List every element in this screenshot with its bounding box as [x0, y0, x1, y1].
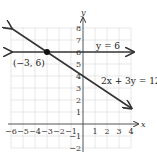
svg-text:−5: −5	[17, 127, 29, 136]
svg-text:−1: −1	[69, 132, 81, 141]
svg-text:4: 4	[128, 127, 133, 136]
graph: x y −6−5−4 −3−2−1 123 4 876 543 21 −1−2 …	[0, 0, 157, 155]
svg-text:−4: −4	[29, 127, 41, 136]
svg-text:−2: −2	[53, 127, 65, 136]
svg-text:2: 2	[104, 127, 109, 136]
label-y-6: y = 6	[95, 41, 120, 51]
svg-text:5: 5	[76, 60, 81, 69]
x-axis-label: x	[141, 120, 146, 129]
svg-text:−6: −6	[5, 127, 17, 136]
intersection-point	[44, 49, 50, 55]
label-2x-3y-12: 2x + 3y = 12	[101, 76, 157, 86]
svg-text:−3: −3	[41, 127, 53, 136]
y-axis-label: y	[80, 8, 86, 17]
svg-text:−2: −2	[69, 144, 81, 153]
label-point: (−3, 6)	[13, 58, 45, 68]
svg-text:1: 1	[76, 108, 81, 117]
svg-text:3: 3	[76, 84, 81, 93]
svg-text:3: 3	[116, 127, 121, 136]
svg-text:7: 7	[76, 36, 81, 45]
svg-text:2: 2	[76, 96, 81, 105]
svg-text:1: 1	[92, 127, 97, 136]
svg-text:8: 8	[76, 24, 81, 33]
